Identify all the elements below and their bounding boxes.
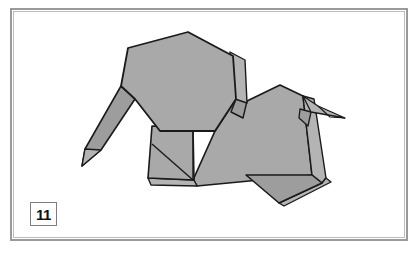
step-number-badge: 11	[30, 202, 57, 226]
elephant-trunk	[82, 86, 135, 166]
diagram-page: 11	[0, 0, 420, 259]
head-ear-shape	[121, 32, 236, 131]
foreleg-shape	[148, 126, 194, 180]
elephant-hind-leg	[246, 175, 331, 206]
elephant-fore-leg	[148, 126, 197, 186]
origami-elephant-figure	[0, 0, 420, 259]
trunk-underfold	[82, 149, 101, 166]
hindleg-shape	[246, 175, 322, 203]
step-number-label: 11	[36, 207, 51, 222]
elephant-tail	[299, 96, 345, 126]
